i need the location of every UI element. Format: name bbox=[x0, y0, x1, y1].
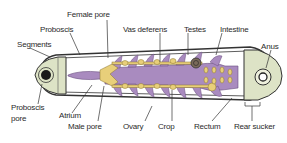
testes-coil bbox=[191, 58, 201, 68]
label-male-pore: Male pore bbox=[68, 122, 102, 131]
label-atrium: Atrium bbox=[59, 111, 81, 120]
label-segments: Segments bbox=[17, 40, 51, 49]
label-rectum: Rectum bbox=[194, 122, 220, 131]
label-ovary: Ovary bbox=[123, 122, 143, 131]
label-proboscis: Proboscis bbox=[40, 25, 73, 34]
label-rear-sucker: Rear sucker bbox=[234, 122, 275, 131]
label-anus: Anus bbox=[261, 42, 278, 51]
label-crop: Crop bbox=[158, 122, 175, 131]
label-female-pore: Female pore bbox=[67, 10, 110, 19]
label-proboscis-pore-line2: pore bbox=[11, 114, 26, 123]
label-intestine: Intestine bbox=[220, 25, 248, 34]
label-testes: Testes bbox=[184, 25, 206, 34]
label-proboscis-pore-line1: Proboscis bbox=[11, 103, 44, 112]
proboscis-pore bbox=[41, 70, 51, 80]
label-vas-deferens: Vas deferens bbox=[123, 25, 167, 34]
